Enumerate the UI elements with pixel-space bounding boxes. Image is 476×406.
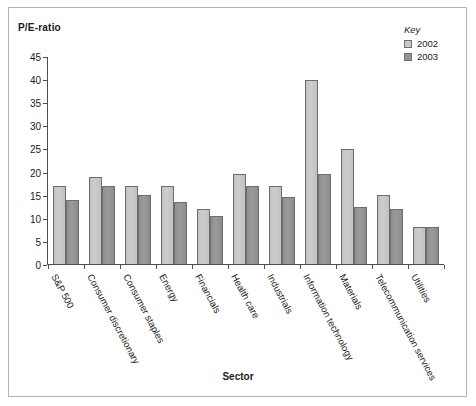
bar-2002 (197, 209, 210, 264)
y-tick-label: 15 (30, 190, 41, 201)
y-tick-label: 0 (35, 260, 41, 271)
x-tick-mark (48, 265, 49, 269)
bar-2002 (89, 177, 102, 264)
bar-group (372, 57, 408, 264)
y-tick-mark (43, 103, 47, 104)
y-tick-label: 35 (30, 98, 41, 109)
x-tick-mark (84, 265, 85, 269)
bar-2002 (233, 174, 246, 264)
y-tick-mark (43, 80, 47, 81)
bar-group (300, 57, 336, 264)
bar-2003 (354, 207, 367, 265)
x-tick-mark (300, 265, 301, 269)
x-tick-mark (336, 265, 337, 269)
x-tick-mark (408, 265, 409, 269)
x-tick-mark (192, 265, 193, 269)
bar-2002 (161, 186, 174, 264)
x-tick-mark (372, 265, 373, 269)
category-labels: S&P 500Consumer discretionaryConsumer st… (47, 270, 467, 370)
bar-group (156, 57, 192, 264)
bar-2002 (269, 186, 282, 264)
x-axis-label: Utilities (409, 272, 433, 304)
y-tick-mark (43, 126, 47, 127)
bar-2002 (341, 149, 354, 264)
y-tick-label: 5 (35, 236, 41, 247)
legend-label-2002: 2002 (417, 38, 438, 49)
x-tick-mark (264, 265, 265, 269)
bar-group (264, 57, 300, 264)
x-axis-label: Financials (193, 272, 223, 315)
bar-groups (48, 57, 444, 264)
y-tick-label: 40 (30, 75, 41, 86)
legend-title: Key (404, 24, 468, 35)
x-tick-mark (120, 265, 121, 269)
legend-swatch-2002 (404, 40, 412, 48)
bar-2002 (305, 80, 318, 264)
y-tick-mark (43, 196, 47, 197)
y-axis-title: P/E-ratio (18, 22, 61, 33)
bar-2002 (377, 195, 390, 264)
chart-page: P/E-ratio Key 2002 2003 4540353025201510… (0, 0, 476, 406)
y-tick-mark (43, 149, 47, 150)
bar-2003 (138, 195, 151, 264)
bar-2003 (210, 216, 223, 264)
y-tick-mark (43, 173, 47, 174)
x-axis-label: S&P 500 (49, 272, 76, 310)
bar-group (228, 57, 264, 264)
bar-2002 (413, 227, 426, 264)
bar-2002 (53, 186, 66, 264)
bar-group (192, 57, 228, 264)
legend-entry-2002: 2002 (404, 38, 468, 49)
bar-2003 (102, 186, 115, 264)
bar-group (120, 57, 156, 264)
bar-2003 (426, 227, 439, 264)
y-tick-label: 25 (30, 144, 41, 155)
y-tick-mark (43, 242, 47, 243)
bar-2003 (174, 202, 187, 264)
bar-group (84, 57, 120, 264)
bar-2003 (318, 174, 331, 264)
x-axis-label: Materials (337, 272, 365, 311)
y-tick-label: 30 (30, 121, 41, 132)
y-tick-label: 10 (30, 213, 41, 224)
bar-group (408, 57, 444, 264)
x-tick-mark (156, 265, 157, 269)
bar-2003 (246, 186, 259, 264)
bar-group (336, 57, 372, 264)
bar-group (48, 57, 84, 264)
plot-area: 454035302520151050 (47, 57, 444, 265)
y-tick-mark (43, 219, 47, 220)
bar-2003 (66, 200, 79, 264)
x-axis-label: Energy (157, 272, 181, 304)
x-axis-title: Sector (0, 371, 476, 382)
x-tick-mark (228, 265, 229, 269)
bar-2003 (282, 197, 295, 264)
x-axis-label: Health care (229, 272, 262, 320)
x-axis-label: Industrials (265, 272, 295, 315)
y-tick-label: 20 (30, 167, 41, 178)
x-axis-label: Telecommunication services (373, 272, 438, 382)
x-tick-mark (444, 265, 445, 269)
bar-2002 (125, 186, 138, 264)
bar-2003 (390, 209, 403, 264)
y-tick-label: 45 (30, 52, 41, 63)
y-tick-mark (43, 57, 47, 58)
